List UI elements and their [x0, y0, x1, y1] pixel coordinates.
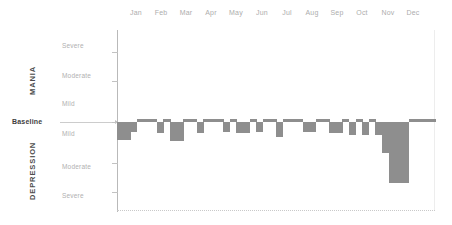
month-label-apr: Apr: [198, 9, 224, 16]
depression-level-severe: Severe: [62, 192, 84, 199]
month-label-sep: Sep: [324, 9, 350, 16]
bar-47: [428, 119, 435, 122]
bar-19: [243, 122, 250, 133]
month-label-mar: Mar: [173, 9, 199, 16]
bar-series: [117, 30, 435, 210]
month-label-aug: Aug: [299, 9, 325, 16]
bar-2: [130, 122, 137, 132]
mania-section-label: MANIA: [28, 66, 37, 95]
bar-6: [157, 122, 164, 133]
plot-bottom-dotted-line: [117, 210, 435, 212]
month-label-oct: Oct: [349, 9, 375, 16]
month-label-nov: Nov: [375, 9, 401, 16]
depression-level-moderate: Moderate: [62, 163, 91, 170]
bar-33: [336, 122, 343, 133]
month-label-feb: Feb: [148, 9, 174, 16]
month-label-jun: Jun: [249, 9, 275, 16]
bar-12: [197, 122, 204, 133]
mania-level-moderate: Moderate: [62, 72, 91, 79]
mania-level-mild: Mild: [62, 100, 75, 107]
month-label-jul: Jul: [274, 9, 300, 16]
baseline-label: Baseline: [12, 118, 42, 125]
mania-level-severe: Severe: [62, 42, 84, 49]
bar-43: [402, 122, 409, 183]
bar-29: [309, 122, 316, 132]
month-label-jan: Jan: [123, 9, 149, 16]
mood-chart: Jan Feb Mar Apr May Jun Jul Aug Sep Oct …: [0, 0, 452, 225]
month-label-dec: Dec: [400, 9, 426, 16]
depression-section-label: DEPRESSION: [28, 142, 37, 200]
bar-21: [256, 122, 263, 132]
bar-35: [349, 122, 356, 135]
bar-9: [177, 122, 184, 141]
bar-37: [362, 122, 369, 135]
bar-16: [223, 122, 230, 132]
month-label-may: May: [223, 9, 249, 16]
bar-24: [276, 122, 283, 137]
depression-level-mild: Mild: [62, 130, 75, 137]
baseline-arrow-icon: [60, 122, 117, 123]
